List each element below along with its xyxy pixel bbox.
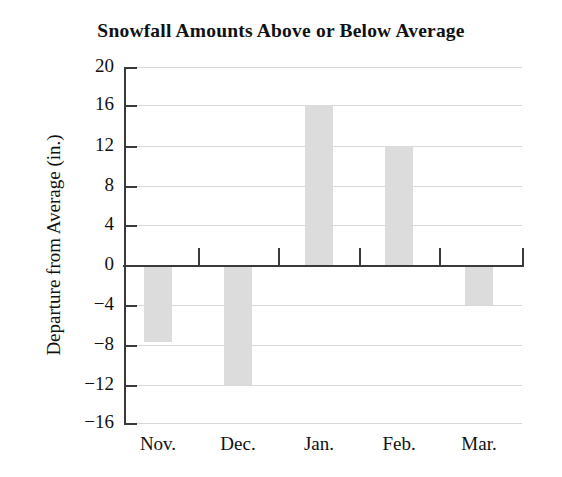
x-tick-2	[278, 248, 280, 265]
bar-nov[interactable]	[144, 265, 172, 342]
x-label-feb: Feb.	[359, 433, 439, 455]
y-tick-label-minus12: −12	[66, 373, 114, 395]
gridline-20	[124, 67, 522, 68]
y-tick-8	[124, 186, 137, 188]
y-tick-12	[124, 146, 137, 148]
y-axis-line	[124, 67, 126, 424]
y-tick-minus12	[124, 385, 137, 387]
page-title: Snowfall Amounts Above or Below Average	[0, 20, 562, 42]
x-label-jan: Jan.	[279, 433, 359, 455]
y-tick-4	[124, 225, 137, 227]
y-tick-20	[124, 67, 137, 69]
y-tick-label-20: 20	[66, 55, 114, 77]
x-tick-4	[439, 248, 441, 265]
y-tick-16	[124, 105, 137, 107]
x-label-mar: Mar.	[439, 433, 519, 455]
bar-feb[interactable]	[385, 146, 413, 265]
gridline-minus8	[124, 345, 522, 346]
x-label-nov: Nov.	[118, 433, 198, 455]
y-tick-label-minus4: −4	[66, 293, 114, 315]
x-tick-end	[522, 248, 524, 265]
y-tick-label-16: 16	[66, 93, 114, 115]
y-tick-label-4: 4	[66, 213, 114, 235]
y-tick-label-0: 0	[66, 253, 114, 275]
y-tick-label-12: 12	[66, 134, 114, 156]
x-label-dec: Dec.	[198, 433, 278, 455]
bar-mar[interactable]	[465, 265, 493, 305]
bar-dec[interactable]	[224, 265, 252, 385]
x-tick-1	[198, 248, 200, 265]
plot-area: 20 16 12 8 4 0 −4 −8 −12 −16 Nov. Dec. J…	[124, 67, 522, 424]
y-tick-minus8	[124, 345, 137, 347]
y-tick-label-8: 8	[66, 174, 114, 196]
bar-jan[interactable]	[305, 105, 333, 265]
gridline-minus16	[124, 423, 522, 424]
y-tick-label-minus16: −16	[66, 411, 114, 433]
y-tick-minus16	[124, 423, 137, 425]
x-tick-3	[359, 248, 361, 265]
y-tick-minus4	[124, 305, 137, 307]
chart-page: Snowfall Amounts Above or Below Average …	[0, 0, 562, 477]
gridline-minus12	[124, 385, 522, 386]
y-tick-label-minus8: −8	[66, 333, 114, 355]
gridline-minus4	[124, 305, 522, 306]
y-axis-title: Departure from Average (in.)	[43, 80, 65, 410]
zero-baseline	[123, 265, 524, 267]
